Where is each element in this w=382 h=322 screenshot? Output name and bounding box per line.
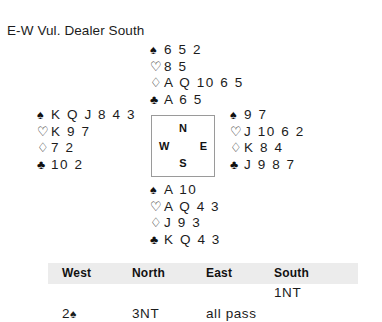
spade-icon: ♠ (230, 107, 244, 124)
auction-header-north: North (132, 266, 165, 280)
auction-body: 1NT 2♠ 3NT all pass (48, 284, 358, 322)
heart-icon: ♡ (150, 199, 164, 216)
hand-west-spades-row: ♠ K Q J 8 4 3 (37, 107, 136, 124)
hand-east-clubs: J 9 8 7 (244, 157, 296, 174)
hand-south-spades-row: ♠ A 10 (150, 182, 221, 199)
compass-box: N W E S (151, 115, 215, 177)
spade-icon: ♠ (150, 42, 164, 59)
diamond-icon: ♢ (150, 215, 164, 232)
hand-west-diamonds: 7 2 (51, 140, 75, 157)
hand-north-spades-row: ♠ 6 5 2 (150, 42, 244, 59)
club-icon: ♣ (150, 92, 164, 109)
hand-south-diamonds-row: ♢ J 9 3 (150, 215, 221, 232)
spade-icon: ♠ (150, 182, 164, 199)
diamond-icon: ♢ (230, 140, 244, 157)
hand-east-spades-row: ♠ 9 7 (230, 107, 305, 124)
hand-south-clubs-row: ♣ K Q 4 3 (150, 232, 221, 249)
compass-north-label: N (179, 123, 187, 134)
auction-header-row: West North East South (48, 263, 358, 284)
club-icon: ♣ (37, 157, 51, 174)
hand-west-spades: K Q J 8 4 3 (51, 107, 136, 124)
hand-east-hearts-row: ♡ J 10 6 2 (230, 124, 305, 141)
hand-north-diamonds-row: ♢ A Q 10 6 5 (150, 75, 244, 92)
auction-bid-north-2: 3NT (132, 306, 159, 321)
hand-north-diamonds: A Q 10 6 5 (164, 75, 244, 92)
spade-icon: ♠ (37, 107, 51, 124)
diamond-icon: ♢ (150, 75, 164, 92)
hand-east-diamonds: K 8 4 (244, 140, 284, 157)
hand-west-clubs: 10 2 (51, 157, 84, 174)
heart-icon: ♡ (230, 124, 244, 141)
hand-east-diamonds-row: ♢ K 8 4 (230, 140, 305, 157)
hand-north: ♠ 6 5 2 ♡ 8 5 ♢ A Q 10 6 5 ♣ A 6 5 (150, 42, 244, 108)
hand-south: ♠ A 10 ♡ A Q 4 3 ♢ J 9 3 ♣ K Q 4 3 (150, 182, 221, 248)
hand-east-clubs-row: ♣ J 9 8 7 (230, 157, 305, 174)
hand-west-diamonds-row: ♢ 7 2 (37, 140, 136, 157)
hand-west-hearts: K 9 7 (51, 124, 91, 141)
diamond-icon: ♢ (37, 140, 51, 157)
hand-north-hearts: 8 5 (164, 59, 188, 76)
hand-south-spades: A 10 (164, 182, 197, 199)
auction-header-south: South (274, 266, 309, 280)
auction-header-east: East (206, 266, 232, 280)
auction-bid-east-2: all pass (206, 306, 257, 321)
deal-title: E-W Vul. Dealer South (7, 23, 144, 38)
compass-east-label: E (200, 141, 207, 152)
club-icon: ♣ (150, 232, 164, 249)
heart-icon: ♡ (37, 124, 51, 141)
auction-bid-west-2: 2♠ (62, 306, 76, 321)
hand-north-hearts-row: ♡ 8 5 (150, 59, 244, 76)
heart-icon: ♡ (150, 59, 164, 76)
hand-south-diamonds: J 9 3 (164, 215, 201, 232)
hand-south-hearts: A Q 4 3 (164, 199, 220, 216)
hand-east-spades: 9 7 (244, 107, 268, 124)
spade-icon: ♠ (70, 307, 76, 321)
compass-west-label: W (159, 141, 169, 152)
hand-north-spades: 6 5 2 (164, 42, 202, 59)
auction-bid-south-1: 1NT (274, 285, 301, 300)
hand-west: ♠ K Q J 8 4 3 ♡ K 9 7 ♢ 7 2 ♣ 10 2 (37, 107, 136, 173)
hand-south-clubs: K Q 4 3 (164, 232, 221, 249)
club-icon: ♣ (230, 157, 244, 174)
hand-north-clubs-row: ♣ A 6 5 (150, 92, 244, 109)
hand-east-hearts: J 10 6 2 (244, 124, 305, 141)
auction-header-west: West (62, 266, 91, 280)
auction-table: West North East South 1NT 2♠ 3NT all pas… (48, 263, 358, 322)
hand-south-hearts-row: ♡ A Q 4 3 (150, 199, 221, 216)
auction-bid-west-2-level: 2 (62, 306, 70, 321)
hand-west-hearts-row: ♡ K 9 7 (37, 124, 136, 141)
hand-west-clubs-row: ♣ 10 2 (37, 157, 136, 174)
hand-east: ♠ 9 7 ♡ J 10 6 2 ♢ K 8 4 ♣ J 9 8 7 (230, 107, 305, 173)
hand-north-clubs: A 6 5 (164, 92, 203, 109)
compass-south-label: S (179, 158, 186, 169)
